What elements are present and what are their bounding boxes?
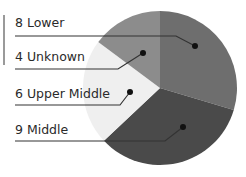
leader-dot-upper-middle (127, 89, 133, 95)
leader-dot-middle (180, 124, 186, 130)
label-middle: 9 Middle (15, 122, 69, 137)
label-upper-middle: 6 Upper Middle (15, 86, 110, 101)
label-lower: 8 Lower (15, 15, 65, 30)
leader-dot-unknown (140, 50, 146, 56)
label-unknown: 4 Unknown (15, 49, 85, 64)
pie-chart: 8 Lower 4 Unknown 6 Upper Middle 9 Middl… (0, 0, 246, 177)
left-edge-bar (3, 15, 5, 65)
leader-dot-lower (192, 43, 198, 49)
